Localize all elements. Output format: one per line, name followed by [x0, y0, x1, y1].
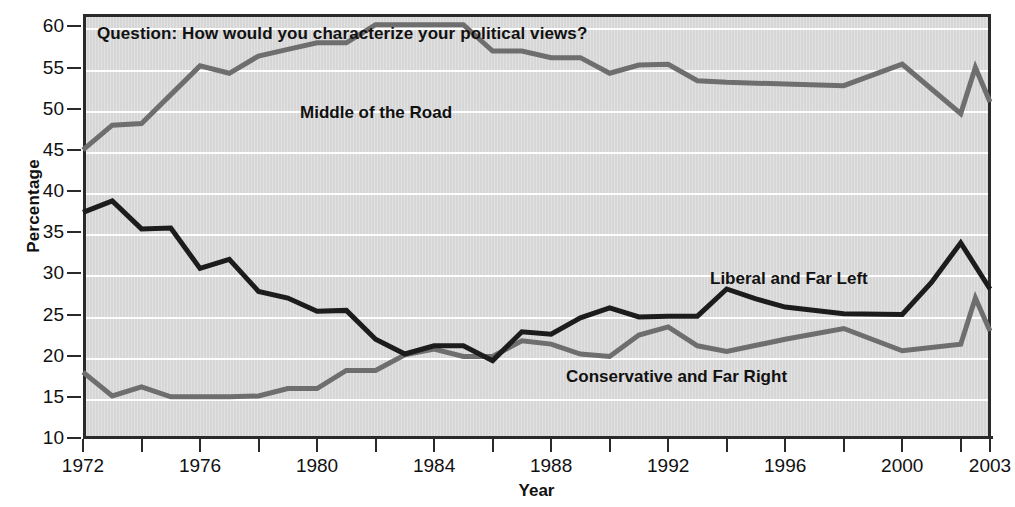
y-tick-mark [67, 149, 81, 151]
y-tick-label: 20 [18, 345, 64, 367]
x-axis-title: Year [83, 481, 990, 501]
gridline [86, 193, 990, 195]
y-tick-label: 45 [18, 139, 64, 161]
x-tick-mark [667, 439, 669, 452]
plot-area [83, 14, 990, 438]
gridline [86, 317, 990, 319]
series-label-liberal-and-far-left: Liberal and Far Left [710, 269, 868, 289]
x-tick-mark [492, 439, 494, 452]
y-tick-label: 55 [18, 57, 64, 79]
chart-figure: Percentage Year 1015202530354045505560 1… [0, 0, 1015, 507]
x-tick-mark [258, 439, 260, 452]
x-tick-mark [433, 439, 435, 452]
gridline [86, 234, 990, 236]
x-tick-mark [901, 439, 903, 452]
x-axis-line [83, 436, 993, 439]
x-tick-mark [550, 439, 552, 452]
y-tick-label: 35 [18, 221, 64, 243]
y-tick-label: 30 [18, 262, 64, 284]
series-label-middle-of-the-road: Middle of the Road [300, 103, 452, 123]
plot-right-border [988, 14, 991, 439]
x-tick-mark [82, 439, 84, 452]
x-tick-label: 2003 [950, 455, 1015, 477]
gridline [86, 152, 990, 154]
x-tick-label: 1988 [511, 455, 591, 477]
x-tick-label: 1972 [43, 455, 123, 477]
y-tick-label: 50 [18, 98, 64, 120]
x-tick-mark [375, 439, 377, 452]
x-tick-mark [609, 439, 611, 452]
y-tick-mark [67, 231, 81, 233]
y-tick-mark [67, 25, 81, 27]
chart-question-text: Question: How would you characterize you… [97, 24, 587, 44]
x-tick-mark [989, 439, 991, 452]
x-tick-mark [784, 439, 786, 452]
x-tick-label: 1984 [394, 455, 474, 477]
y-tick-label: 25 [18, 304, 64, 326]
y-tick-label: 15 [18, 386, 64, 408]
gridline [86, 70, 990, 72]
x-tick-mark [843, 439, 845, 452]
x-tick-mark [726, 439, 728, 452]
y-tick-mark [67, 108, 81, 110]
x-tick-mark [199, 439, 201, 452]
x-tick-label: 2000 [862, 455, 942, 477]
y-tick-label: 40 [18, 180, 64, 202]
x-tick-mark [960, 439, 962, 452]
gridline [86, 399, 990, 401]
gridline [86, 111, 990, 113]
x-tick-label: 1996 [745, 455, 825, 477]
x-tick-label: 1980 [277, 455, 357, 477]
x-tick-mark [316, 439, 318, 452]
x-tick-mark [141, 439, 143, 452]
series-label-conservative-and-far-right: Conservative and Far Right [566, 367, 787, 387]
y-tick-mark [67, 67, 81, 69]
y-tick-label: 60 [18, 15, 64, 37]
y-tick-label: 10 [18, 427, 64, 449]
gridline [86, 358, 990, 360]
y-tick-mark [67, 190, 81, 192]
x-tick-label: 1992 [628, 455, 708, 477]
y-tick-mark [67, 314, 81, 316]
y-tick-mark [67, 272, 81, 274]
y-tick-mark [67, 396, 81, 398]
x-tick-label: 1976 [160, 455, 240, 477]
y-tick-mark [67, 355, 81, 357]
y-tick-mark [67, 437, 81, 439]
